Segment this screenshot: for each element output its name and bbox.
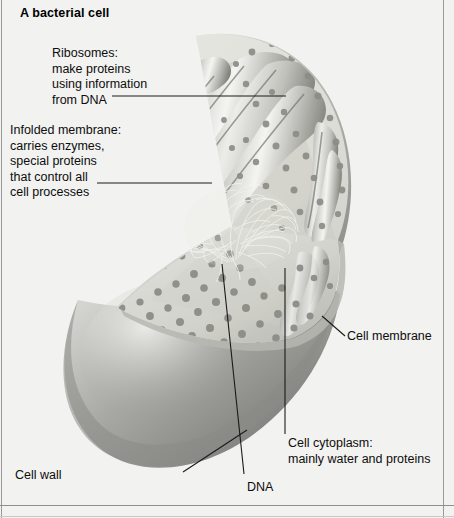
- label-cell-wall: Cell wall: [15, 468, 62, 484]
- label-dna: DNA: [247, 480, 273, 496]
- label-infolded-membrane: Infolded membrane: carries enzymes, spec…: [10, 123, 121, 201]
- dna-nucleoid-glow: [184, 186, 296, 270]
- diagram-page: A bacterial cell: [0, 0, 454, 518]
- label-cell-cytoplasm: Cell cytoplasm: mainly water and protein…: [288, 436, 430, 467]
- label-ribosomes: Ribosomes: make proteins using informati…: [52, 46, 147, 108]
- label-cell-membrane: Cell membrane: [347, 329, 432, 345]
